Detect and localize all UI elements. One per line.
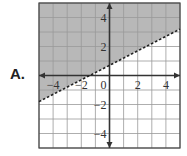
svg-text:−2: −2 <box>94 98 107 112</box>
svg-text:2: 2 <box>101 40 107 54</box>
inequality-graph: −4−202442−2−4 <box>0 0 187 156</box>
svg-text:0: 0 <box>101 78 107 92</box>
svg-text:−2: −2 <box>75 78 88 92</box>
svg-text:−4: −4 <box>47 78 60 92</box>
svg-text:4: 4 <box>163 78 169 92</box>
svg-text:2: 2 <box>135 78 141 92</box>
svg-text:−4: −4 <box>94 127 107 141</box>
svg-text:4: 4 <box>101 11 107 25</box>
